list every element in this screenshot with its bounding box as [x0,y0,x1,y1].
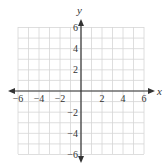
y-tick-label: 6 [73,22,78,33]
y-tick-label: −6 [67,149,78,160]
coordinate-plane: x y −6−4−2246 642−2−4−6 [0,0,167,165]
y-tick-label: 4 [73,43,78,54]
y-tick-label: 2 [73,64,78,75]
x-axis-right-arrow-icon [148,88,155,94]
x-tick-labels: −6−4−2246 [13,93,147,104]
x-tick-label: −4 [34,93,45,104]
x-axis-label: x [156,85,162,97]
x-tick-label: −6 [13,93,24,104]
x-tick-label: 2 [100,93,105,104]
y-tick-label: −2 [67,107,78,118]
x-tick-label: −2 [55,93,66,104]
y-tick-label: −4 [67,128,78,139]
axes [8,19,155,163]
y-axis-label: y [76,4,82,16]
x-tick-label: 6 [142,93,147,104]
y-axis-up-arrow-icon [78,19,84,26]
y-axis-down-arrow-icon [78,156,84,163]
x-tick-label: 4 [121,93,126,104]
